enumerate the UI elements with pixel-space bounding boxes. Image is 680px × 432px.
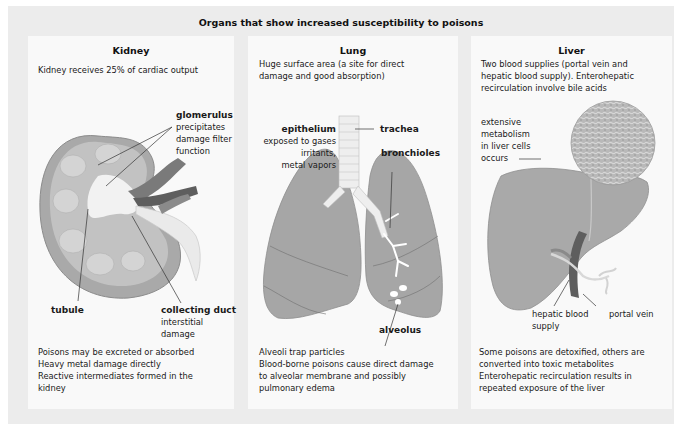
kidney-note-1: Poisons may be excreted or absorbed <box>38 346 194 358</box>
alveolus-label: alveolus <box>379 324 421 336</box>
glomerulus-desc-2: damage filter <box>176 133 232 145</box>
metabolism-desc-1: extensive <box>481 116 521 128</box>
lung-note-4: pulmonary edema <box>259 382 335 394</box>
collecting-duct-desc-1: interstitial <box>161 316 203 328</box>
epithelium-desc-1: exposed to gases <box>248 135 336 147</box>
liver-note-4: repeated exposure of the liver <box>479 382 605 394</box>
collecting-duct-label: collecting duct <box>161 304 236 316</box>
portal-vein-label: portal vein <box>609 308 654 320</box>
hepatic-blood-supply-label-2: supply <box>532 320 559 332</box>
collecting-duct-desc-2: damage <box>161 328 195 340</box>
metabolism-desc-2: metabolism <box>481 128 530 140</box>
figure-title: Organs that show increased susceptibilit… <box>8 17 674 28</box>
hepatic-blood-supply-label-1: hepatic blood <box>532 308 588 320</box>
bronchioles-label: bronchioles <box>381 147 440 159</box>
lung-panel: Lung Huge surface area (a site for direc… <box>248 36 458 409</box>
epithelium-desc-2: irritants, <box>248 147 336 159</box>
lung-note-1: Alveoli trap particles <box>259 346 345 358</box>
kidney-note-3: Reactive intermediates formed in the <box>38 370 193 382</box>
lung-note-2: Blood-borne poisons cause direct damage <box>259 358 434 370</box>
liver-panel: Liver Two blood supplies (portal vein an… <box>471 36 672 409</box>
trachea-label: trachea <box>380 123 419 135</box>
glomerulus-label: glomerulus <box>176 109 233 121</box>
metabolism-desc-4: occurs <box>481 152 508 164</box>
liver-note-3: Enterohepatic recirculation results in <box>479 370 632 382</box>
tubule-label: tubule <box>51 304 84 316</box>
lung-note-3: to alveolar membrane and possibly <box>259 370 406 382</box>
figure-frame: Organs that show increased susceptibilit… <box>8 6 674 424</box>
epithelium-desc-3: metal vapors <box>248 159 336 171</box>
glomerulus-desc-3: function <box>176 145 210 157</box>
epithelium-label: epithelium <box>248 123 336 135</box>
liver-note-1: Some poisons are detoxified, others are <box>479 346 645 358</box>
kidney-panel: Kidney Kidney receives 25% of cardiac ou… <box>28 36 234 409</box>
kidney-note-2: Heavy metal damage directly <box>38 358 161 370</box>
kidney-note-4: kidney <box>38 382 66 394</box>
glomerulus-desc-1: precipitates <box>176 121 225 133</box>
metabolism-desc-3: in liver cells <box>481 140 530 152</box>
liver-note-2: converted into toxic metabolites <box>479 358 614 370</box>
